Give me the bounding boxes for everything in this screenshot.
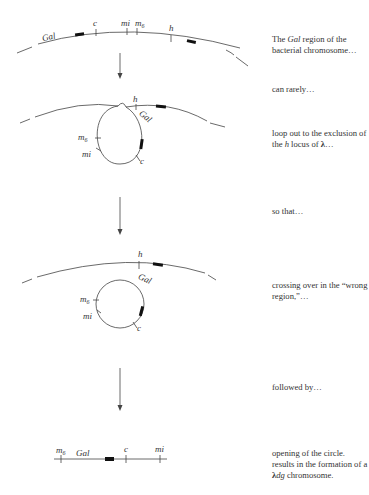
m6-label: m6 <box>78 132 88 143</box>
caption-6: followed by… <box>272 382 368 393</box>
gal-block <box>139 139 143 149</box>
gal-block <box>139 306 144 316</box>
gal-label: Gal <box>41 30 57 43</box>
caption-2: can rarely… <box>272 84 368 95</box>
stage2-loop: h Gal m6 mi c <box>20 94 225 166</box>
mi-label: mi <box>155 444 164 454</box>
h-label: h <box>138 249 143 259</box>
stage1-chromosome: Gal c mi m6 h <box>17 18 248 66</box>
mi-label: mi <box>121 18 130 28</box>
c-label: c <box>124 444 128 454</box>
caption-1: The Gal region of the bacterial chromoso… <box>272 34 368 56</box>
caption-5: crossing over in the “wrong region,”… <box>272 280 368 302</box>
caption-3: loop out to the exclusion of the h locus… <box>272 128 368 150</box>
h-label: h <box>133 94 138 104</box>
gal-block <box>105 457 114 461</box>
arrow-2 <box>118 197 123 235</box>
gal-label: Gal <box>137 271 154 286</box>
c-label: c <box>93 18 97 28</box>
h-region-block <box>156 104 166 108</box>
stage4-lambda-dg: m6 Gal c mi <box>54 444 167 463</box>
m6-label: m6 <box>80 294 90 305</box>
mi-label: mi <box>82 149 91 159</box>
gal-label: Gal <box>137 108 154 125</box>
m6-label: m6 <box>135 18 145 29</box>
gal-label: Gal <box>76 448 90 458</box>
c-label: c <box>137 323 141 333</box>
mi-label: mi <box>83 311 92 321</box>
h-region-block <box>187 39 196 44</box>
arrow-3 <box>118 368 123 411</box>
lambda-dg-diagram: Gal c mi m6 h h Gal m6 mi c <box>0 0 369 495</box>
stage3-crossover: h Gal m6 mi c <box>22 249 216 333</box>
arrow-1 <box>118 53 123 79</box>
caption-4: so that… <box>272 206 368 217</box>
c-label: c <box>140 156 144 166</box>
h-region-block <box>153 262 163 266</box>
h-label: h <box>169 23 174 33</box>
m6-label: m6 <box>56 445 66 456</box>
caption-7: opening of the circle. results in the fo… <box>272 448 368 481</box>
gal-block <box>75 32 84 36</box>
